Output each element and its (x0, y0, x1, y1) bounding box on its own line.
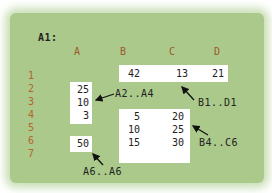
arrow-icons (0, 0, 272, 193)
arrow-b4-c6-icon (193, 126, 208, 135)
arrow-a2-a4-icon (96, 94, 114, 100)
arrow-b1-d1-icon (182, 87, 194, 100)
arrow-a6-a6-icon (93, 154, 103, 165)
